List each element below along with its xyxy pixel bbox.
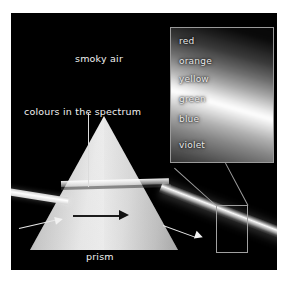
photo-plate: red orange yellow green blue violet smok… [11,13,277,270]
colours-pointer-line [88,113,89,187]
label-colours-in-the-spectrum: colours in the spectrum [24,106,141,117]
spectrum-label-red: red [179,36,194,46]
arrow-inside-prism-shaft [73,215,121,217]
spectrum-inset-panel: red orange yellow green blue violet [170,27,274,163]
figure-root: red orange yellow green blue violet smok… [0,0,286,284]
spectrum-label-yellow: yellow [179,74,209,84]
spectrum-label-orange: orange [179,56,212,66]
arrow-outgoing-beam-head [194,231,204,241]
label-smoky-air: smoky air [75,53,123,64]
label-prism: prism [86,251,114,262]
arrow-inside-prism-head [119,210,129,220]
spectrum-label-blue: blue [179,114,199,124]
spectrum-label-violet: violet [179,140,205,150]
callout-focus-box [216,205,248,253]
spectrum-label-green: green [179,94,206,104]
